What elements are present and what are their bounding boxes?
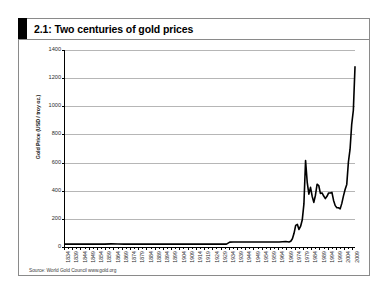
x-tick-label: 1899 xyxy=(173,251,178,263)
x-tick-mark xyxy=(212,247,213,250)
x-tick-mark-minor xyxy=(118,247,119,249)
x-tick-mark xyxy=(80,247,81,250)
x-tick-label: 1889 xyxy=(157,251,162,263)
x-tick-mark xyxy=(138,247,139,250)
x-tick-mark xyxy=(155,247,156,250)
x-tick-mark xyxy=(303,247,304,250)
x-tick-label: 1969 xyxy=(289,251,294,263)
y-tick-label: 1000 xyxy=(49,103,61,109)
x-tick-label: 1949 xyxy=(256,251,261,263)
x-tick-label: 1904 xyxy=(182,251,187,263)
x-tick-mark-minor xyxy=(274,247,275,249)
x-tick-label: 1849 xyxy=(91,251,96,263)
x-tick-mark xyxy=(171,247,172,250)
x-tick-mark xyxy=(336,247,337,250)
x-tick-mark-minor xyxy=(167,247,168,249)
y-tick-label: 1200 xyxy=(49,75,61,81)
x-tick-mark xyxy=(97,247,98,250)
x-tick-mark xyxy=(146,247,147,250)
x-tick-mark xyxy=(113,247,114,250)
x-tick-label: 1864 xyxy=(116,251,121,263)
x-tick-mark-minor xyxy=(332,247,333,249)
x-tick-mark-minor xyxy=(76,247,77,249)
x-tick-mark xyxy=(89,247,90,250)
x-tick-mark-minor xyxy=(85,247,86,249)
plot-wrapper: Gold Price (USD / troy oz.) 020040060080… xyxy=(19,40,371,277)
x-tick-mark xyxy=(245,247,246,250)
chart-container: Gold Price (USD / troy oz.) 020040060080… xyxy=(18,39,370,276)
x-tick-mark xyxy=(352,247,353,250)
x-tick-mark xyxy=(179,247,180,250)
x-tick-mark-minor xyxy=(126,247,127,249)
x-tick-mark-minor xyxy=(192,247,193,249)
x-tick-label: 1884 xyxy=(149,251,154,263)
x-tick-mark-minor xyxy=(324,247,325,249)
x-tick-mark-minor xyxy=(208,247,209,249)
x-tick-mark xyxy=(278,247,279,250)
x-tick-mark-minor xyxy=(142,247,143,249)
x-tick-mark-minor xyxy=(200,247,201,249)
x-tick-label: 2004 xyxy=(346,251,351,263)
y-tick-label: 200 xyxy=(52,216,61,222)
x-tick-mark xyxy=(163,247,164,250)
x-tick-label: 2009 xyxy=(355,251,360,263)
x-tick-label: 1914 xyxy=(198,251,203,263)
x-tick-mark xyxy=(319,247,320,250)
x-tick-mark-minor xyxy=(241,247,242,249)
x-tick-mark-minor xyxy=(175,247,176,249)
x-tick-label: 1999 xyxy=(338,251,343,263)
x-tick-mark-minor xyxy=(233,247,234,249)
x-tick-mark-minor xyxy=(216,247,217,249)
x-tick-label: 1989 xyxy=(322,251,327,263)
x-tick-mark-minor xyxy=(307,247,308,249)
x-tick-mark-minor xyxy=(340,247,341,249)
y-tick-label: 0 xyxy=(58,244,61,250)
x-tick-label: 1964 xyxy=(280,251,285,263)
x-tick-label: 1984 xyxy=(313,251,318,263)
x-tick-label: 1869 xyxy=(124,251,129,263)
x-tick-label: 1859 xyxy=(107,251,112,263)
x-tick-mark-minor xyxy=(258,247,259,249)
x-tick-label: 1874 xyxy=(132,251,137,263)
y-tick-label: 800 xyxy=(52,132,61,138)
x-tick-mark-minor xyxy=(68,247,69,249)
x-tick-mark-minor xyxy=(134,247,135,249)
y-tick-label: 1400 xyxy=(49,47,61,53)
y-tick-label: 600 xyxy=(52,160,61,166)
x-tick-mark xyxy=(262,247,263,250)
x-tick-mark-minor xyxy=(159,247,160,249)
x-tick-label: 1994 xyxy=(330,251,335,263)
x-tick-label: 1894 xyxy=(165,251,170,263)
x-tick-label: 1929 xyxy=(223,251,228,263)
x-tick-label: 1879 xyxy=(140,251,145,263)
x-tick-mark xyxy=(221,247,222,250)
x-tick-label: 1959 xyxy=(272,251,277,263)
x-tick-mark xyxy=(311,247,312,250)
x-tick-mark xyxy=(253,247,254,250)
x-tick-label: 1979 xyxy=(305,251,310,263)
x-tick-label: 1909 xyxy=(190,251,195,263)
x-tick-label: 1924 xyxy=(215,251,220,263)
x-tick-label: 1834 xyxy=(66,251,71,263)
x-tick-mark xyxy=(344,247,345,250)
x-tick-mark xyxy=(295,247,296,250)
x-tick-label: 1974 xyxy=(297,251,302,263)
x-tick-mark-minor xyxy=(249,247,250,249)
x-tick-label: 1854 xyxy=(99,251,104,263)
x-tick-mark xyxy=(64,247,65,250)
x-tick-mark-minor xyxy=(183,247,184,249)
title-accent-bar xyxy=(18,18,27,39)
x-tick-mark-minor xyxy=(291,247,292,249)
x-tick-mark xyxy=(72,247,73,250)
x-tick-mark-minor xyxy=(348,247,349,249)
series-line-gold-price xyxy=(65,50,355,247)
x-tick-mark xyxy=(130,247,131,250)
plot-area xyxy=(64,50,355,248)
x-tick-mark-minor xyxy=(266,247,267,249)
x-tick-mark xyxy=(188,247,189,250)
x-tick-mark xyxy=(237,247,238,250)
x-tick-mark-minor xyxy=(109,247,110,249)
x-tick-label: 1844 xyxy=(83,251,88,263)
y-tick-label: 400 xyxy=(52,188,61,194)
x-tick-mark-minor xyxy=(282,247,283,249)
